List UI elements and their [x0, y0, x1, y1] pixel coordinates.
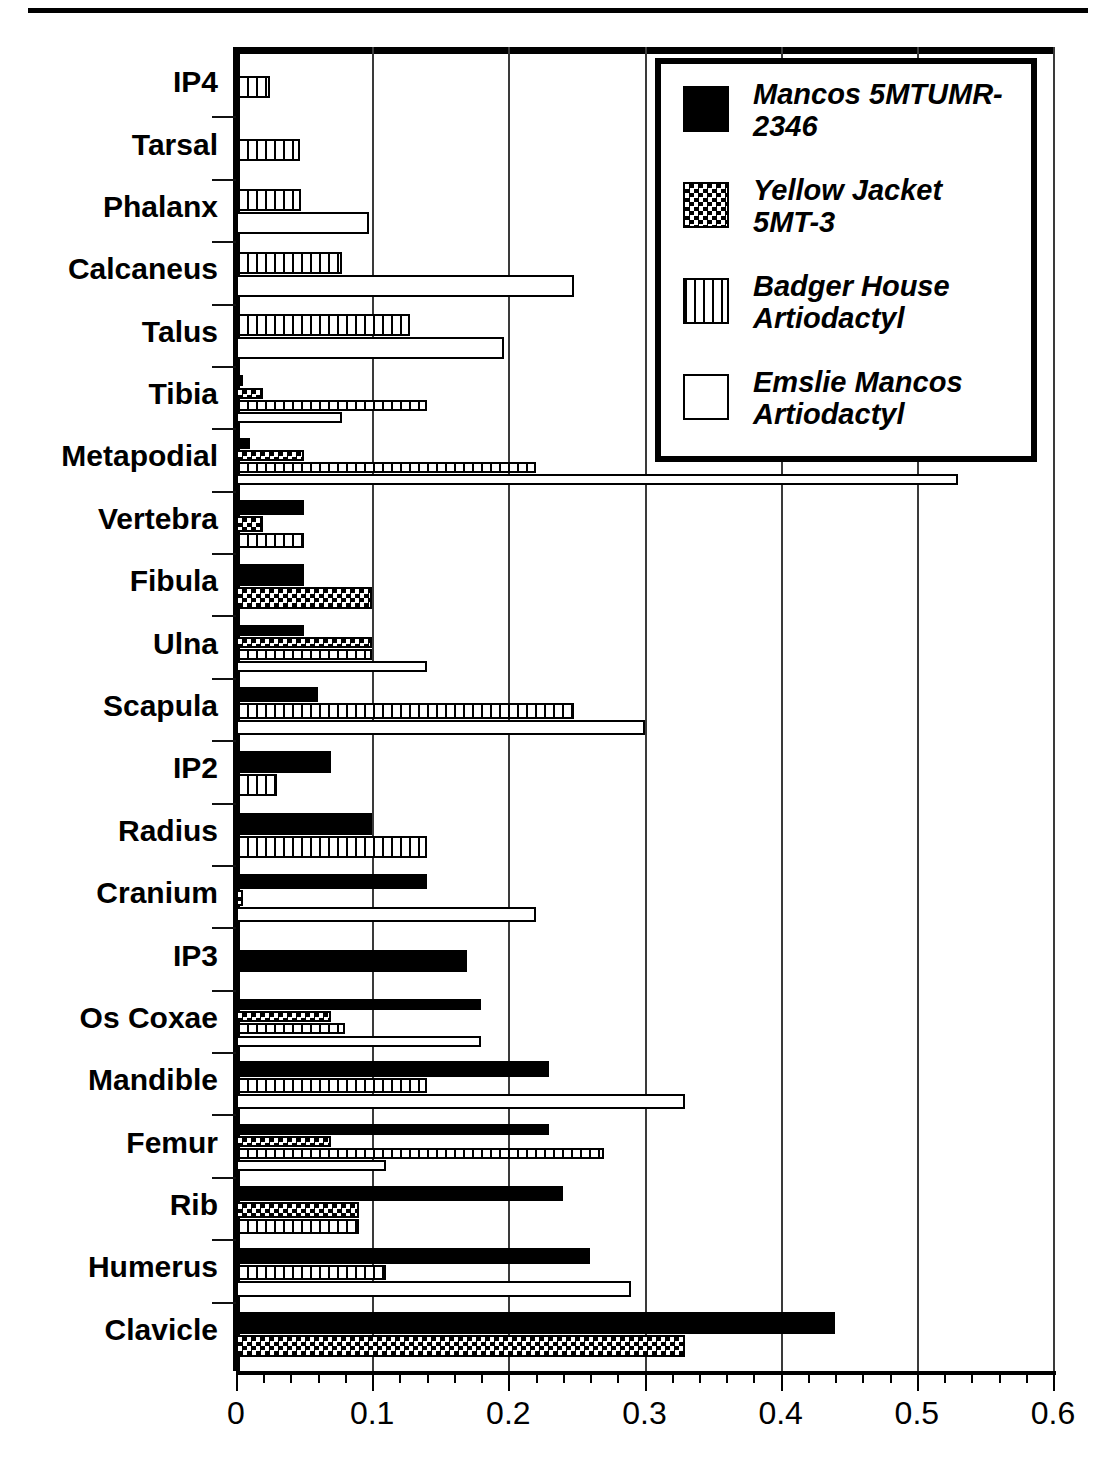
bar-rib-series2 — [236, 1219, 359, 1234]
x-tick-label-0.2: 0.2 — [486, 1395, 530, 1432]
legend-item-2: Badger HouseArtiodactyl — [683, 270, 1021, 335]
legend-item-0: Mancos 5MTUMR-2346 — [683, 78, 1021, 143]
bar-os-coxae-series2 — [236, 1023, 345, 1034]
bar-mandible-series2 — [236, 1078, 427, 1093]
checker-swatch — [683, 182, 729, 228]
legend-label-line2: 2346 — [753, 110, 1021, 142]
x-tick-minor — [481, 1373, 483, 1383]
bar-mandible-series3 — [236, 1094, 685, 1109]
legend-label-0: Mancos 5MTUMR-2346 — [753, 78, 1021, 143]
x-tick-minor — [318, 1373, 320, 1383]
vertical-hatch-swatch — [683, 278, 729, 324]
bar-ulna-series0 — [236, 625, 304, 636]
x-tick-minor — [590, 1373, 592, 1383]
bar-ulna-series2 — [236, 649, 372, 660]
x-tick-major — [236, 1373, 238, 1391]
bar-calcaneus-series2 — [236, 252, 342, 274]
bar-tarsal-series2 — [236, 139, 300, 161]
y-axis-label-phalanx: Phalanx — [0, 190, 218, 224]
y-axis-label-ip4: IP4 — [0, 65, 218, 99]
bar-talus-series3 — [236, 337, 504, 359]
bar-vertebra-series1 — [236, 516, 263, 531]
bar-rib-series0 — [236, 1186, 563, 1201]
bar-mandible-series0 — [236, 1061, 549, 1076]
bar-radius-series2 — [236, 836, 427, 858]
legend-item-1: Yellow Jacket5MT-3 — [683, 174, 1021, 239]
legend: Mancos 5MTUMR-2346Yellow Jacket5MT-3Badg… — [655, 58, 1037, 462]
x-tick-minor — [454, 1373, 456, 1383]
x-tick-major — [508, 1373, 510, 1391]
y-axis-tick — [212, 304, 236, 306]
y-axis-tick — [212, 865, 236, 867]
bar-cranium-series3 — [236, 907, 536, 922]
legend-label-line1: Emslie Mancos — [753, 366, 1021, 398]
bar-tibia-series2 — [236, 400, 427, 411]
y-axis-tick — [212, 740, 236, 742]
y-axis-label-mandible: Mandible — [0, 1063, 218, 1097]
bar-cranium-series0 — [236, 874, 427, 889]
y-axis-tick — [212, 1114, 236, 1116]
y-axis-tick — [212, 241, 236, 243]
y-axis-label-cranium: Cranium — [0, 876, 218, 910]
x-tick-minor — [290, 1373, 292, 1383]
y-axis-label-os-coxae: Os Coxae — [0, 1001, 218, 1035]
y-axis-tick — [212, 803, 236, 805]
bar-ulna-series3 — [236, 661, 427, 672]
x-tick-major — [917, 1373, 919, 1391]
bar-phalanx-series3 — [236, 212, 369, 234]
legend-label-3: Emslie MancosArtiodactyl — [753, 366, 1021, 431]
bar-humerus-series2 — [236, 1265, 386, 1280]
x-tick-minor — [427, 1373, 429, 1383]
bar-femur-series2 — [236, 1148, 604, 1159]
x-tick-minor — [890, 1373, 892, 1383]
x-tick-minor — [753, 1373, 755, 1383]
bar-os-coxae-series0 — [236, 999, 481, 1010]
y-axis-tick — [212, 491, 236, 493]
bar-femur-series1 — [236, 1136, 331, 1147]
x-tick-label-0.4: 0.4 — [758, 1395, 802, 1432]
legend-label-1: Yellow Jacket5MT-3 — [753, 174, 1021, 239]
legend-label-line1: Yellow Jacket — [753, 174, 1021, 206]
y-axis-label-ulna: Ulna — [0, 627, 218, 661]
bar-ip3-series0 — [236, 950, 467, 972]
bar-scapula-series2 — [236, 703, 574, 718]
legend-label-line2: Artiodactyl — [753, 398, 1021, 430]
y-axis-tick — [212, 1177, 236, 1179]
x-tick-label-0.1: 0.1 — [350, 1395, 394, 1432]
bar-phalanx-series2 — [236, 189, 301, 211]
y-axis-label-tarsal: Tarsal — [0, 128, 218, 162]
x-tick-minor — [399, 1373, 401, 1383]
y-axis-label-metapodial: Metapodial — [0, 439, 218, 473]
bar-femur-series0 — [236, 1124, 549, 1135]
x-tick-label-0.3: 0.3 — [622, 1395, 666, 1432]
gridline-0.6 — [1053, 47, 1055, 1371]
bar-ip4-series2 — [236, 76, 270, 98]
y-axis-label-tibia: Tibia — [0, 377, 218, 411]
bar-metapodial-series1 — [236, 450, 304, 461]
x-tick-minor — [699, 1373, 701, 1383]
bar-tibia-series1 — [236, 388, 263, 399]
x-tick-minor — [563, 1373, 565, 1383]
bar-radius-series0 — [236, 813, 372, 835]
x-tick-minor — [263, 1373, 265, 1383]
y-axis-tick — [212, 1239, 236, 1241]
y-axis-label-ip2: IP2 — [0, 751, 218, 785]
y-axis-label-vertebra: Vertebra — [0, 502, 218, 536]
bar-clavicle-series1 — [236, 1335, 685, 1357]
x-tick-minor — [726, 1373, 728, 1383]
white-open-swatch — [683, 374, 729, 420]
legend-label-line1: Badger House — [753, 270, 1021, 302]
bar-scapula-series0 — [236, 687, 318, 702]
bar-metapodial-series3 — [236, 474, 958, 485]
bar-os-coxae-series3 — [236, 1036, 481, 1047]
y-axis-label-scapula: Scapula — [0, 689, 218, 723]
y-axis-tick — [212, 366, 236, 368]
bar-chart-figure: IP4TarsalPhalanxCalcaneusTalusTibiaMetap… — [0, 0, 1116, 1474]
x-tick-minor — [672, 1373, 674, 1383]
bar-fibula-series0 — [236, 564, 304, 586]
bar-tibia-series3 — [236, 412, 342, 423]
bar-femur-series3 — [236, 1160, 386, 1171]
x-tick-minor — [971, 1373, 973, 1383]
x-tick-minor — [617, 1373, 619, 1383]
y-axis-label-rib: Rib — [0, 1188, 218, 1222]
